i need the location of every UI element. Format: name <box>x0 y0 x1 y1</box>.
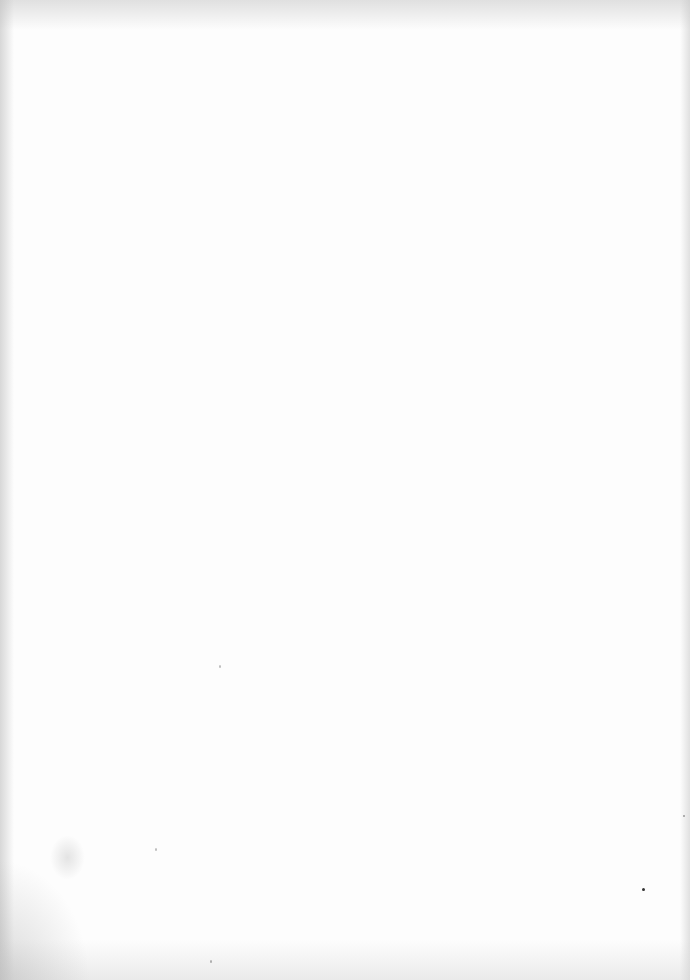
scan-edge-shadow-top <box>0 0 690 30</box>
scan-edge-shadow-right <box>680 0 690 980</box>
paper-smudge <box>50 835 85 880</box>
dust-speck <box>210 960 212 963</box>
dust-speck <box>642 888 645 891</box>
dust-speck <box>683 815 685 817</box>
dust-speck <box>155 848 157 851</box>
scan-corner-shading <box>0 860 90 980</box>
scan-edge-shadow-bottom <box>0 940 690 980</box>
blank-page <box>0 0 690 980</box>
scan-edge-shadow-left <box>0 0 14 980</box>
dust-speck <box>219 665 221 668</box>
